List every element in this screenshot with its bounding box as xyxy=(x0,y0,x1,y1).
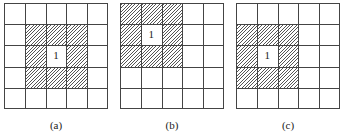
panel-b: 1 (b) xyxy=(120,3,224,109)
grid-line-horizontal xyxy=(236,67,340,68)
grid-line-horizontal xyxy=(236,88,340,89)
hatched-cell xyxy=(236,24,257,45)
grid-line-horizontal xyxy=(236,24,340,25)
hatched-cell xyxy=(66,45,87,66)
grid-line-horizontal xyxy=(120,45,224,46)
grid-line-vertical xyxy=(298,3,299,109)
grid-line-vertical xyxy=(223,3,224,109)
grid-line-horizontal xyxy=(4,67,108,68)
hatched-cell xyxy=(141,45,162,66)
hatched-cell xyxy=(257,67,278,88)
grid-line-horizontal xyxy=(120,108,224,109)
hatched-cell xyxy=(25,45,46,66)
grid-line-horizontal xyxy=(120,88,224,89)
grid-a: 1 xyxy=(4,3,108,109)
grid-line-horizontal xyxy=(4,108,108,109)
hatched-cell xyxy=(162,3,183,24)
hatched-cell xyxy=(25,67,46,88)
grid-line-horizontal xyxy=(120,24,224,25)
grid-line-horizontal xyxy=(4,3,108,4)
grid-line-horizontal xyxy=(236,108,340,109)
hatched-cell xyxy=(278,45,299,66)
hatched-cell xyxy=(66,24,87,45)
grid-line-vertical xyxy=(162,3,163,109)
grid-line-vertical xyxy=(236,3,237,109)
grid-line-vertical xyxy=(141,3,142,109)
hatched-cell xyxy=(141,3,162,24)
hatched-cell xyxy=(46,24,67,45)
hatched-cell xyxy=(162,45,183,66)
caption-b: (b) xyxy=(120,119,224,131)
grid-line-vertical xyxy=(87,3,88,109)
hatched-cell xyxy=(46,67,67,88)
hatched-cell xyxy=(66,67,87,88)
panel-c: 1 (c) xyxy=(236,3,340,109)
hatched-cell xyxy=(278,67,299,88)
grid-line-vertical xyxy=(120,3,121,109)
hatched-cell xyxy=(236,67,257,88)
grid-line-vertical xyxy=(182,3,183,109)
grid-line-horizontal xyxy=(4,88,108,89)
grid-line-vertical xyxy=(319,3,320,109)
hatched-cell xyxy=(257,24,278,45)
grid-c: 1 xyxy=(236,3,340,109)
grid-line-horizontal xyxy=(4,24,108,25)
caption-c: (c) xyxy=(236,119,340,131)
center-cell-label: 1 xyxy=(46,50,67,61)
hatched-cell xyxy=(278,24,299,45)
hatched-cell xyxy=(120,45,141,66)
caption-a: (a) xyxy=(4,119,108,131)
grid-line-vertical xyxy=(4,3,5,109)
grid-line-horizontal xyxy=(4,45,108,46)
grid-line-horizontal xyxy=(236,3,340,4)
grid-line-horizontal xyxy=(120,3,224,4)
center-cell-label: 1 xyxy=(141,29,162,40)
hatched-cell xyxy=(236,45,257,66)
hatched-cell xyxy=(162,24,183,45)
panel-a: 1 (a) xyxy=(4,3,108,109)
grid-b: 1 xyxy=(120,3,224,109)
grid-line-horizontal xyxy=(236,45,340,46)
grid-line-vertical xyxy=(339,3,340,109)
grid-line-vertical xyxy=(278,3,279,109)
hatched-cell xyxy=(120,3,141,24)
grid-line-vertical xyxy=(66,3,67,109)
hatched-cell xyxy=(25,24,46,45)
grid-line-vertical xyxy=(203,3,204,109)
center-cell-label: 1 xyxy=(257,50,278,61)
grid-line-vertical xyxy=(107,3,108,109)
hatched-cell xyxy=(120,24,141,45)
grid-line-vertical xyxy=(25,3,26,109)
grid-line-horizontal xyxy=(120,67,224,68)
